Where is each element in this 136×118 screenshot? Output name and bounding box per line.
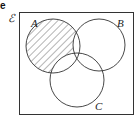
question-marker: e — [0, 0, 6, 11]
set-c-label: C — [95, 100, 103, 112]
set-b-label: B — [117, 17, 124, 29]
set-a-label: A — [30, 17, 38, 29]
universal-set-label: ℰ — [8, 12, 16, 24]
set-c-circle — [50, 53, 104, 107]
venn-diagram: e ℰ A B C — [0, 0, 136, 118]
